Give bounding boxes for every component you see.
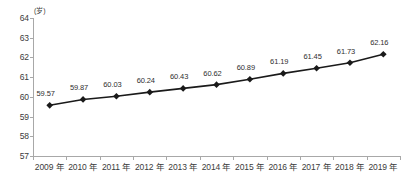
- data-point-marker: [80, 96, 87, 103]
- data-point-marker: [46, 102, 53, 109]
- data-point-label: 60.03: [103, 81, 121, 89]
- series-polyline: [50, 54, 384, 105]
- series-line: [0, 0, 419, 180]
- x-axis-label: 2010 年: [68, 163, 98, 172]
- data-point-label: 60.43: [170, 73, 188, 81]
- x-axis-label: 2011 年: [102, 163, 131, 172]
- x-axis-label: 2016 年: [268, 163, 298, 172]
- x-axis-label: 2015 年: [235, 163, 265, 172]
- x-axis-label: 2019 年: [368, 163, 398, 172]
- line-chart: (岁) 6463626160595857 59.5759.8760.0360.2…: [0, 0, 419, 180]
- x-axis-label: 2012 年: [135, 163, 165, 172]
- data-point-label: 61.19: [270, 58, 288, 66]
- data-point-label: 60.24: [137, 77, 155, 85]
- data-point-label: 59.57: [37, 90, 55, 98]
- data-point-marker: [180, 85, 187, 92]
- data-point-marker: [380, 51, 387, 58]
- data-point-marker: [280, 70, 287, 77]
- x-axis-label: 2014 年: [202, 163, 232, 172]
- data-point-marker: [146, 89, 153, 96]
- data-point-label: 60.89: [237, 64, 255, 72]
- data-point-label: 61.45: [303, 53, 321, 61]
- data-point-label: 60.62: [203, 70, 221, 78]
- x-axis-label: 2017 年: [302, 163, 332, 172]
- x-axis-label: 2009 年: [35, 163, 65, 172]
- x-axis-label: 2013 年: [168, 163, 198, 172]
- data-point-marker: [313, 65, 320, 72]
- data-point-label: 61.73: [337, 48, 355, 56]
- data-point-label: 62.16: [370, 39, 388, 47]
- data-point-marker: [213, 81, 220, 88]
- x-axis-label: 2018 年: [335, 163, 365, 172]
- data-point-label: 59.87: [70, 84, 88, 92]
- data-point-marker: [113, 93, 120, 100]
- data-point-marker: [247, 76, 254, 83]
- data-point-marker: [347, 59, 354, 66]
